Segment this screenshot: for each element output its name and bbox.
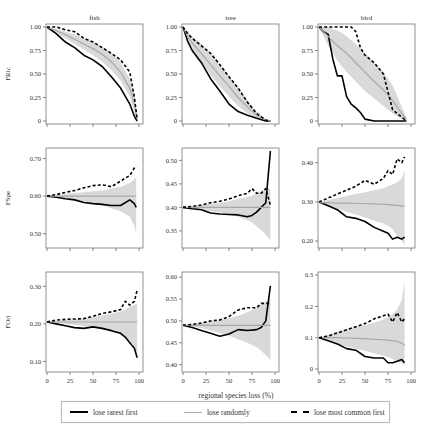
y-tick-label: 0 (38, 117, 41, 124)
y-tick-label: 0.45 (166, 339, 177, 346)
panel-tree-FSpe: 0.350.400.450.50 (166, 148, 279, 251)
y-tick-label: 0 (310, 117, 313, 124)
x-tick-label: 100 (270, 377, 280, 384)
plot-frame (182, 24, 279, 124)
y-tick-label: 0.40 (166, 204, 177, 211)
panel-fish-FSpe: 0.500.600.70FSpe (4, 148, 143, 251)
y-tick-label: 0.75 (166, 47, 177, 54)
y-tick-label: 0.40 (166, 361, 177, 368)
y-tick-label: 0.25 (30, 94, 41, 101)
y-tick-label: 0.3 (305, 271, 313, 278)
confidence-band (319, 281, 405, 366)
x-tick-label: 25 (67, 377, 74, 384)
panel-tree-FRic: 00.250.500.751.00tree (166, 14, 279, 127)
x-tick-label: 100 (134, 377, 144, 384)
x-axis-label: regional species loss (%) (186, 391, 286, 400)
confidence-band (47, 303, 137, 354)
legend-item-rare: lose rarest first (70, 408, 138, 417)
x-tick-label: 25 (203, 377, 210, 384)
x-tick-label: 0 (45, 377, 48, 384)
legend-item-common: lose most common first (291, 408, 385, 417)
panel-bird-FSpe: 0.200.300.40 (302, 148, 415, 251)
y-tick-label: 0.45 (166, 180, 177, 187)
column-title: tree (225, 14, 236, 22)
x-tick-label: 0 (317, 377, 320, 384)
panel-fish-FRic: 00.250.500.751.00fishFRic (4, 14, 143, 127)
x-tick-label: 50 (90, 377, 97, 384)
y-tick-label: 0.50 (166, 157, 177, 164)
y-tick-label: 0.60 (166, 273, 177, 280)
dashed-line-swatch-icon (291, 411, 309, 413)
y-tick-label: 0.55 (166, 295, 177, 302)
panel-bird-FRic: 00.250.500.751.00bird (302, 14, 415, 127)
y-tick-label: 0.25 (302, 94, 313, 101)
y-tick-label: 0.20 (302, 237, 313, 244)
y-tick-label: 0.70 (30, 155, 41, 162)
legend-label-common: lose most common first (314, 408, 385, 417)
y-tick-label: 0.35 (166, 227, 177, 234)
y-tick-label: 0 (310, 365, 313, 372)
y-tick-label: 0.50 (30, 70, 41, 77)
panel-tree-FOri: 0.400.450.500.550.600255075100 (166, 272, 280, 384)
legend-label-rare: lose rarest first (93, 408, 138, 417)
plot-frame (46, 24, 143, 124)
y-tick-label: 0.50 (302, 70, 313, 77)
y-tick-label: 0.1 (305, 334, 313, 341)
column-title: fish (89, 14, 100, 22)
confidence-band (47, 177, 136, 233)
x-tick-label: 75 (249, 377, 256, 384)
grey-line-swatch-icon (184, 412, 202, 413)
y-tick-label: 0.50 (30, 230, 41, 237)
y-tick-label: 0.25 (166, 94, 177, 101)
solid-line-swatch-icon (70, 411, 88, 413)
y-tick-label: 0.2 (305, 303, 313, 310)
x-tick-label: 0 (181, 377, 184, 384)
y-tick-label: 0.75 (30, 47, 41, 54)
x-tick-label: 75 (385, 377, 392, 384)
column-title: bird (361, 14, 373, 22)
y-tick-label: 1.00 (30, 23, 41, 30)
y-axis-label: FSpe (4, 191, 12, 205)
y-tick-label: 0.75 (302, 47, 313, 54)
y-tick-label: 1.00 (166, 23, 177, 30)
y-axis-label: FOri (4, 315, 12, 328)
y-tick-label: 0.40 (302, 159, 313, 166)
y-tick-label: 0 (174, 117, 177, 124)
y-tick-label: 0.10 (30, 358, 41, 365)
panel-bird-FOri: 00.10.20.30255075100 (305, 271, 416, 384)
panel-fish-FOri: 0.100.200.300255075100FOri (4, 272, 144, 384)
x-tick-label: 100 (406, 377, 416, 384)
y-axis-label: FRic (4, 67, 12, 81)
legend-item-random: lose randomly (184, 408, 250, 417)
y-tick-label: 0.30 (30, 283, 41, 290)
y-tick-label: 0.20 (30, 320, 41, 327)
y-tick-label: 0.50 (166, 317, 177, 324)
x-tick-label: 50 (362, 377, 369, 384)
x-tick-label: 25 (339, 377, 346, 384)
x-tick-label: 75 (113, 377, 120, 384)
legend-label-random: lose randomly (207, 408, 250, 417)
legend: lose rarest first lose randomly lose mos… (61, 401, 390, 423)
y-tick-label: 0.50 (166, 70, 177, 77)
x-tick-label: 50 (226, 377, 233, 384)
y-tick-label: 0.30 (302, 198, 313, 205)
y-tick-label: 1.00 (302, 23, 313, 30)
y-tick-label: 0.60 (30, 192, 41, 199)
figure-canvas: 00.250.500.751.00fishFRic00.250.500.751.… (0, 0, 431, 434)
